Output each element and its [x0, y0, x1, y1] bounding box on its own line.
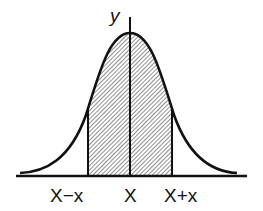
shaded-region — [20, 33, 237, 176]
x-label-center: X — [124, 186, 137, 205]
x-label-left: X−x — [50, 186, 83, 205]
normal-curve-diagram — [0, 0, 263, 211]
y-axis-label: y — [110, 6, 120, 25]
x-label-right: X+x — [164, 186, 197, 205]
